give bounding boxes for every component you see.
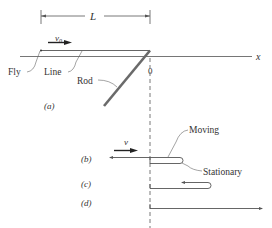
moving-label: Moving bbox=[189, 125, 219, 135]
line-leader bbox=[68, 51, 82, 72]
origin-label: 0 bbox=[148, 66, 153, 76]
part-b-label: (b) bbox=[81, 154, 92, 164]
rod-label: Rod bbox=[77, 76, 93, 86]
moving-leader bbox=[168, 130, 188, 157]
dimension-L: L bbox=[41, 10, 150, 24]
stationary-label: Stationary bbox=[203, 167, 242, 177]
fly-label: Fly bbox=[8, 67, 21, 77]
part-d-label: (d) bbox=[81, 198, 92, 208]
stationary-leader bbox=[182, 163, 202, 171]
part-a-label: (a) bbox=[44, 101, 55, 111]
fly-casting-diagram: L v0 x 0 Fly Line Rod (a) v (b) Moving S… bbox=[0, 0, 272, 228]
panel-c: (c) bbox=[81, 179, 211, 189]
velocity-v0-arrow: v0 bbox=[48, 33, 72, 45]
panel-b: v (b) Moving Stationary bbox=[81, 125, 242, 177]
part-c-label: (c) bbox=[81, 179, 91, 189]
rod bbox=[104, 51, 150, 107]
panel-d: (d) bbox=[81, 198, 263, 210]
line-label: Line bbox=[44, 67, 61, 77]
velocity-v-label: v bbox=[124, 137, 128, 147]
rod-leader bbox=[98, 80, 117, 87]
x-axis-label: x bbox=[255, 51, 261, 62]
fly-leader bbox=[27, 51, 40, 72]
dimension-label: L bbox=[89, 10, 96, 22]
fly-dot bbox=[40, 50, 42, 52]
